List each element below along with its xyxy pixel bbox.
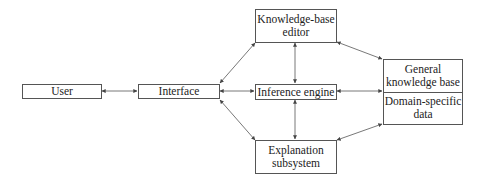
- general-kb-label-line2: knowledge base: [386, 76, 460, 89]
- domain-data-label-line2: data: [413, 108, 432, 121]
- kb-editor-label-line1: Knowledge-base: [257, 13, 334, 26]
- kb-editor-label-line2: editor: [283, 26, 310, 39]
- inference-engine-box: Inference engine: [255, 84, 337, 100]
- explanation-label-line2: subsystem: [272, 157, 320, 170]
- edge-interface-explanation: [220, 100, 255, 140]
- user-label: User: [51, 85, 73, 98]
- general-knowledge-base-section: General knowledge base: [384, 60, 462, 93]
- edge-interface-kbeditor: [220, 43, 255, 83]
- domain-data-label-line1: Domain-specific: [385, 95, 462, 108]
- kb-editor-box: Knowledge-base editor: [255, 9, 337, 43]
- knowledge-base-box: General knowledge base Domain-specific d…: [383, 59, 463, 125]
- user-box: User: [22, 84, 102, 99]
- domain-specific-data-section: Domain-specific data: [384, 93, 462, 125]
- general-kb-label-line1: General: [405, 63, 441, 76]
- interface-box: Interface: [138, 84, 220, 99]
- explanation-subsystem-box: Explanation subsystem: [255, 140, 337, 174]
- interface-label: Interface: [159, 85, 200, 98]
- explanation-label-line1: Explanation: [268, 144, 324, 157]
- edge-explanation-kb: [337, 124, 382, 140]
- inference-engine-label: Inference engine: [258, 86, 335, 99]
- expert-system-diagram: User Interface Knowledge-base editor Inf…: [0, 0, 485, 182]
- edge-kbeditor-kb: [337, 42, 382, 59]
